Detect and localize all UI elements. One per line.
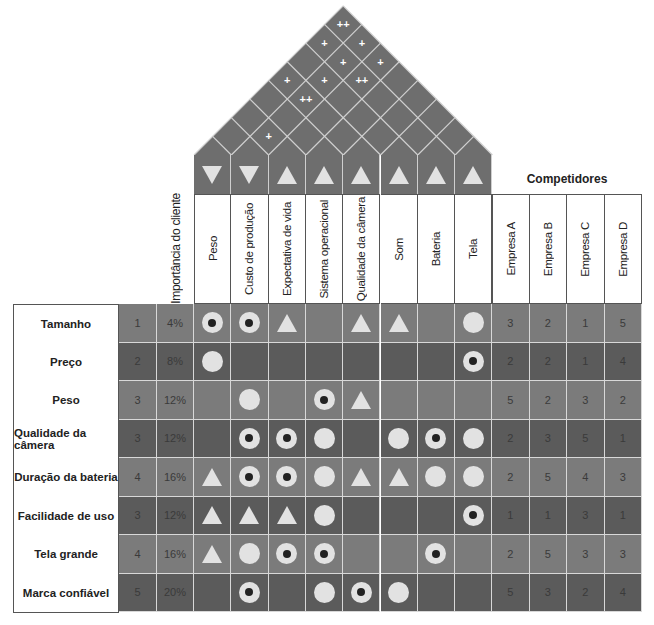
arrow-up-triangle-icon (351, 166, 371, 184)
engineering-header: Som (381, 194, 418, 304)
relationship-cell (269, 497, 306, 536)
competitor-score: 5 (492, 574, 530, 613)
importance-percent: 8% (157, 343, 194, 382)
medium-relationship-icon (239, 389, 260, 410)
importance-value: 3 (119, 381, 157, 420)
relationship-cell (418, 535, 455, 574)
relationship-cell (455, 420, 492, 459)
competitor-score: 3 (567, 497, 605, 536)
engineering-header-label: Expectativa de vida (281, 202, 293, 296)
importance-percent: 12% (157, 420, 194, 459)
relationship-cell (455, 574, 492, 613)
relationship-cell (231, 497, 268, 536)
relationship-cell (306, 304, 343, 343)
competitor-score: 1 (492, 497, 530, 536)
relationship-cell (455, 535, 492, 574)
relationship-cell (231, 381, 268, 420)
competitor-score: 3 (605, 535, 643, 574)
competitor-score: 1 (567, 343, 605, 382)
relationship-cell (194, 343, 231, 382)
relationship-cell (343, 304, 380, 343)
requirement-label: Peso (13, 381, 119, 421)
competitor-header: Empresa A (492, 194, 530, 304)
relationship-cell (343, 420, 380, 459)
medium-relationship-icon (314, 428, 335, 449)
competitor-score: 5 (567, 420, 605, 459)
importance-value: 2 (119, 343, 157, 382)
competitor-score: 5 (530, 458, 568, 497)
importance-percent: 20% (157, 574, 194, 613)
importance-percent: 16% (157, 535, 194, 574)
competitor-score: 1 (567, 304, 605, 343)
relationship-cell (455, 381, 492, 420)
relationship-cell (269, 574, 306, 613)
relationship-cell (418, 497, 455, 536)
medium-relationship-icon (314, 582, 335, 603)
strong-relationship-icon (239, 582, 260, 603)
requirement-label: Tela grande (13, 535, 119, 575)
requirement-label: Preço (13, 343, 119, 383)
competitor-score: 5 (492, 381, 530, 420)
medium-relationship-icon (314, 466, 335, 487)
weak-relationship-icon (351, 468, 371, 486)
relationship-cell (418, 420, 455, 459)
weak-relationship-icon (202, 468, 222, 486)
competitor-score: 3 (530, 574, 568, 613)
strong-relationship-icon (276, 428, 297, 449)
relationship-cell (231, 458, 268, 497)
correlation-mark: + (321, 75, 327, 86)
importance-percent: 4% (157, 304, 194, 343)
relationship-cell (269, 458, 306, 497)
relationship-cell (343, 458, 380, 497)
engineering-header: Custo de produção (231, 194, 268, 304)
engineering-header-label: Qualidade da câmera (355, 197, 367, 301)
competitor-score: 4 (605, 343, 643, 382)
arrow-up-triangle-icon (389, 166, 409, 184)
strong-relationship-icon (425, 543, 446, 564)
requirement-label: Qualidade da câmera (13, 420, 119, 460)
relationship-cell (306, 420, 343, 459)
correlation-mark: + (321, 38, 327, 49)
engineering-header-label: Tela (467, 239, 479, 259)
relationship-cell (343, 343, 380, 382)
strong-relationship-icon (314, 389, 335, 410)
importance-value: 4 (119, 535, 157, 574)
engineering-header-label: Bateria (430, 232, 442, 266)
relationship-cell (306, 458, 343, 497)
relationship-cell (306, 497, 343, 536)
correlation-mark: + (359, 38, 365, 49)
relationship-cell (269, 381, 306, 420)
relationship-cell (381, 343, 418, 382)
relationship-cell (194, 574, 231, 613)
weak-relationship-icon (239, 506, 259, 524)
competitor-score: 1 (605, 420, 643, 459)
relationship-cell (455, 458, 492, 497)
relationship-cell (231, 574, 268, 613)
relationship-cell (231, 343, 268, 382)
strong-relationship-icon (239, 312, 260, 333)
relationship-cell (381, 381, 418, 420)
importance-value: 4 (119, 458, 157, 497)
relationship-cell (418, 574, 455, 613)
relationship-cell (418, 381, 455, 420)
relationship-cell (343, 381, 380, 420)
competitor-header-label: Empresa C (579, 222, 591, 277)
arrow-up-triangle-icon (463, 166, 483, 184)
competitor-score: 3 (605, 458, 643, 497)
engineering-header-label: Sistema operacional (318, 200, 330, 299)
correlation-mark: ++ (299, 94, 312, 105)
requirement-label: Duração da bateria (13, 458, 119, 498)
relationship-cell (269, 304, 306, 343)
competitor-score: 2 (530, 304, 568, 343)
strong-relationship-icon (239, 466, 260, 487)
relationship-cell (455, 497, 492, 536)
competitor-score: 5 (530, 535, 568, 574)
weak-relationship-icon (351, 314, 371, 332)
requirement-label: Facilidade de uso (13, 497, 119, 537)
competitor-score: 4 (605, 574, 643, 613)
competitor-score: 3 (567, 381, 605, 420)
relationship-cell (418, 304, 455, 343)
competitor-score: 1 (605, 497, 643, 536)
arrow-up-triangle-icon (314, 166, 334, 184)
medium-relationship-icon (388, 582, 409, 603)
